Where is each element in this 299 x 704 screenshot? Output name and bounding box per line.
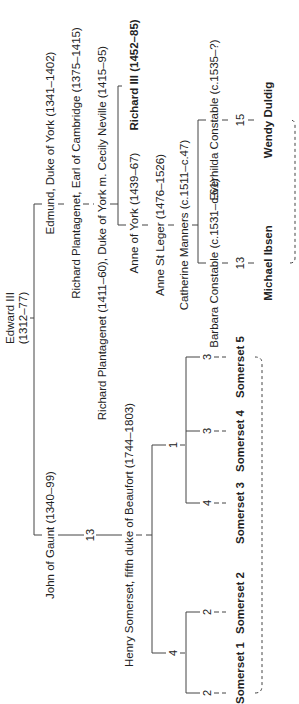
generations-count: 2 <box>201 607 213 617</box>
person-somerset-2: Somerset 2 <box>234 572 247 634</box>
generations-count: 2 <box>201 688 213 698</box>
person-richard-duke-york: Richard Plantagenet (1411–60), Duke of Y… <box>96 46 109 420</box>
person-richard-iii: Richard III (1452–85) <box>128 19 141 130</box>
person-henry-somerset: Henry Somerset, fifth duke of Beaufort (… <box>123 403 136 667</box>
person-somerset-1: Somerset 1 <box>234 642 247 704</box>
generations-count: 1 <box>167 440 179 450</box>
person-catherine-manners: Catherine Manners (c.1511–c.47) <box>178 140 191 310</box>
edward-iii-name: Edward III <box>4 292 17 344</box>
person-wendy-duldig: Wendy Duldig <box>262 82 275 158</box>
generations-count: 13 <box>84 527 96 543</box>
person-barbara-constable: Barbara Constable (c.1531–c.61) <box>208 178 221 347</box>
generations-count: 4 <box>167 648 179 658</box>
person-michael-ibsen: Michael Ibsen <box>262 225 275 300</box>
person-somerset-3: Somerset 3 <box>234 482 247 544</box>
edward-iii-dates: (1312–77) <box>17 292 30 344</box>
generations-count: 3 <box>201 352 213 362</box>
person-anne-of-york: Anne of York (1439–67) <box>128 153 141 274</box>
generations-count: 13 <box>234 255 246 271</box>
person-anne-st-leger: Anne St Leger (1476–1526) <box>154 154 167 296</box>
person-somerset-5: Somerset 5 <box>234 336 247 398</box>
person-richard-earl-cambridge: Richard Plantagenet, Earl of Cambridge (… <box>70 27 83 299</box>
person-edmund: Edmund, Duke of York (1341–1402) <box>44 52 57 235</box>
person-everhilda-constable: Everhilda Constable (c.1535–?) <box>208 39 221 200</box>
person-john-of-gaunt: John of Gaunt (1340–99) <box>44 471 57 599</box>
person-somerset-4: Somerset 4 <box>234 410 247 472</box>
generations-count: 3 <box>201 426 213 436</box>
generations-count: 4 <box>201 498 213 508</box>
generations-count: 15 <box>234 112 246 128</box>
